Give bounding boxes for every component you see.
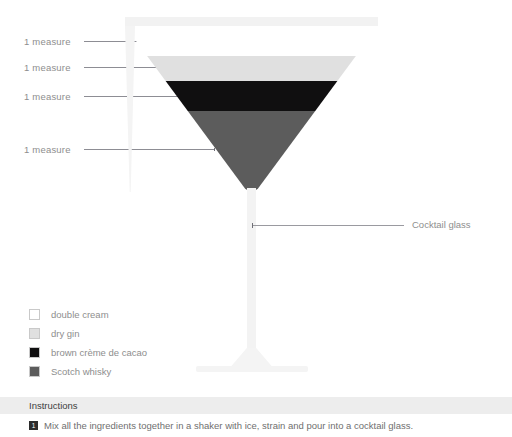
- measure-label-double-cream: 1 measure: [24, 37, 71, 47]
- glass-rim: [125, 17, 378, 26]
- layer-dry-gin: [125, 56, 378, 81]
- legend-item-double-cream: double cream: [29, 305, 249, 324]
- legend-item-dry-gin: dry gin: [29, 324, 249, 343]
- leader-line-cocktail-glass: [252, 225, 404, 226]
- legend-swatch-scotch-whisky: [29, 366, 40, 377]
- legend-swatch-double-cream: [29, 309, 40, 320]
- layer-brown-creme-de-cacao: [125, 81, 378, 111]
- measure-label-creme-de-cacao: 1 measure: [24, 92, 71, 102]
- liquid-layers: [125, 26, 378, 192]
- legend-swatch-brown-creme-de-cacao: [29, 347, 40, 358]
- instructions-section: Instructions 1 Mix all the ingredients t…: [0, 392, 512, 437]
- layer-scotch-whisky: [125, 111, 378, 192]
- instruction-step-text: Mix all the ingredients together in a sh…: [44, 421, 413, 431]
- cocktail-diagram: 1 measure 1 measure 1 measure 1 measure …: [0, 0, 512, 392]
- legend-label-dry-gin: dry gin: [51, 329, 80, 339]
- measure-label-scotch-whisky: 1 measure: [24, 145, 71, 155]
- legend-label-double-cream: double cream: [51, 310, 109, 320]
- glass-wall-left: [125, 26, 135, 192]
- instruction-step-number: 1: [29, 421, 38, 430]
- legend-item-scotch-whisky: Scotch whisky: [29, 362, 249, 381]
- legend-label-scotch-whisky: Scotch whisky: [51, 367, 111, 377]
- instructions-heading: Instructions: [29, 401, 78, 411]
- glass-bowl: [125, 26, 378, 192]
- callout-label-cocktail-glass: Cocktail glass: [412, 220, 471, 230]
- measure-label-dry-gin: 1 measure: [24, 63, 71, 73]
- legend: double cream dry gin brown crème de caca…: [29, 305, 249, 381]
- layer-double-cream: [125, 26, 378, 56]
- legend-swatch-dry-gin: [29, 328, 40, 339]
- legend-label-brown-creme-de-cacao: brown crème de cacao: [51, 348, 147, 358]
- instruction-step: 1 Mix all the ingredients together in a …: [29, 421, 413, 431]
- legend-item-brown-creme-de-cacao: brown crème de cacao: [29, 343, 249, 362]
